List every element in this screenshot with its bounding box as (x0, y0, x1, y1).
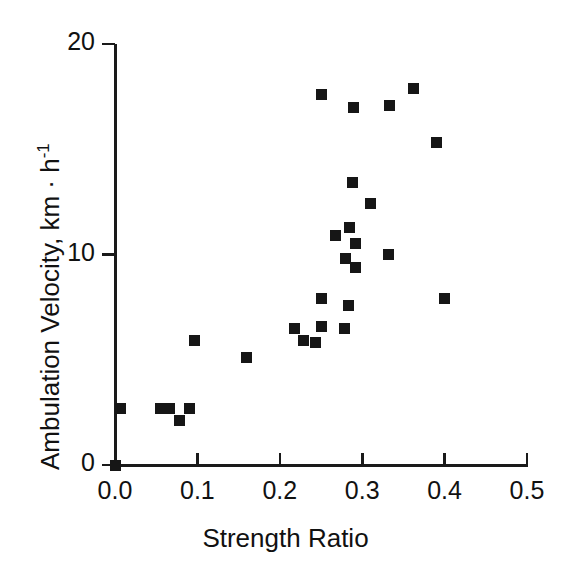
y-axis-title-text: Ambulation Velocity, km · h (35, 158, 65, 470)
y-axis-title-exponent: -1 (34, 143, 53, 158)
scatter-chart-figure: 0.00.10.20.30.40.501020 Strength Ratio A… (0, 0, 571, 581)
data-point (289, 323, 300, 334)
y-tick-0 (102, 464, 115, 467)
x-tick-label: 0.2 (240, 476, 320, 505)
data-point (330, 230, 341, 241)
data-point (350, 238, 361, 249)
data-point (316, 89, 327, 100)
data-point (339, 323, 350, 334)
data-point (343, 300, 354, 311)
data-point (344, 222, 355, 233)
data-point (316, 293, 327, 304)
x-tick-0.5 (526, 453, 529, 466)
data-point (431, 137, 442, 148)
y-tick-label: 20 (5, 27, 95, 56)
data-point (298, 335, 309, 346)
data-point (408, 83, 419, 94)
x-tick-label: 0.5 (487, 476, 567, 505)
x-tick-label: 0.1 (157, 476, 237, 505)
x-tick-0.3 (361, 453, 364, 466)
x-tick-label: 0.4 (405, 476, 485, 505)
x-tick-0.2 (279, 453, 282, 466)
data-point (184, 403, 195, 414)
x-axis-title: Strength Ratio (0, 523, 571, 554)
y-axis-title: Ambulation Velocity, km · h-1 (34, 143, 66, 470)
data-point (241, 352, 252, 363)
data-point (155, 403, 166, 414)
data-point (347, 177, 358, 188)
data-point (439, 293, 450, 304)
x-axis-line (114, 464, 528, 467)
data-point (340, 253, 351, 264)
data-point (383, 249, 394, 260)
data-point (174, 415, 185, 426)
x-tick-label: 0.0 (75, 476, 155, 505)
data-point (384, 100, 395, 111)
y-tick-20 (102, 43, 115, 46)
data-point (348, 102, 359, 113)
x-axis-title-text: Strength Ratio (202, 523, 368, 553)
data-point (365, 198, 376, 209)
x-tick-0.4 (443, 453, 446, 466)
data-point (164, 403, 175, 414)
data-point (310, 337, 321, 348)
data-point (115, 403, 126, 414)
x-tick-0.1 (196, 453, 199, 466)
x-tick-label: 0.3 (322, 476, 402, 505)
y-tick-10 (102, 253, 115, 256)
data-point (189, 335, 200, 346)
data-point (350, 262, 361, 273)
data-point (316, 321, 327, 332)
